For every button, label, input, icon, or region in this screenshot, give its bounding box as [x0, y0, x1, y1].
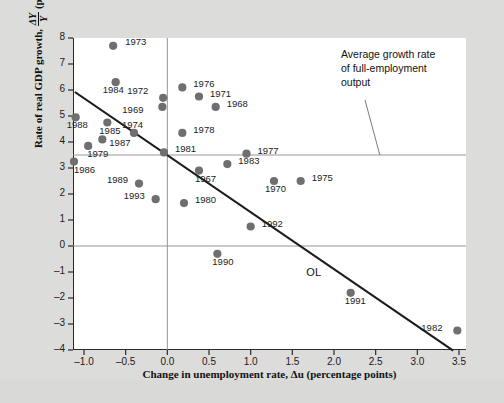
data-point-1993	[152, 195, 160, 203]
data-point-label-1980: 1980	[195, 194, 216, 205]
data-point-label-1991: 1991	[345, 295, 366, 306]
data-point-1992	[247, 222, 255, 230]
data-point-1972	[159, 94, 167, 102]
x-axis-tick-label: –0.5	[106, 356, 146, 367]
delta-y-over-y-fraction: ΔYY	[28, 12, 49, 26]
data-point-label-1993: 1993	[124, 190, 145, 201]
okuns-law-line-label: OL	[306, 266, 321, 278]
data-point-1973	[109, 42, 117, 50]
y-axis-tick-label: 3	[39, 161, 65, 172]
data-point-label-1992: 1992	[262, 218, 283, 229]
data-point-label-1969: 1969	[122, 104, 143, 115]
data-point-label-1989: 1989	[107, 174, 128, 185]
data-point-label-1972: 1972	[127, 85, 148, 96]
x-axis-tick-label: 0.5	[189, 356, 229, 367]
data-point-label-1970: 1970	[265, 183, 286, 194]
x-axis-tick-label: 2.0	[314, 356, 354, 367]
data-point-label-1985: 1985	[99, 125, 120, 136]
data-point-label-1978: 1978	[193, 124, 214, 135]
data-point-label-1981: 1981	[175, 143, 196, 154]
data-point-1969	[158, 103, 166, 111]
annotation-full-employment: Average growth rateof full-employmentout…	[341, 48, 463, 90]
x-axis-label: Change in unemployment rate, Δu (percent…	[73, 368, 466, 380]
x-axis-tick-label: 2.5	[356, 356, 396, 367]
data-point-1974	[130, 129, 138, 137]
data-point-label-1982: 1982	[421, 322, 442, 333]
data-point-label-1979: 1979	[87, 148, 108, 159]
data-point-1976	[178, 83, 186, 91]
y-axis-label: Rate of real GDP growth, ΔYY (percent pe…	[29, 0, 50, 148]
data-point-1982	[453, 326, 461, 334]
data-point-1975	[297, 177, 305, 185]
y-axis-label-text-a: Rate of real GDP growth,	[32, 26, 44, 148]
x-axis-tick-label: 3.0	[397, 356, 437, 367]
data-point-1971	[195, 92, 203, 100]
plot-area: 876543210–1–2–3–4–1.0–0.50.00.51.01.52.0…	[73, 38, 466, 350]
y-axis-tick-label: 2	[39, 187, 65, 198]
data-point-label-1975: 1975	[312, 172, 333, 183]
x-axis-tick-label: 0.0	[147, 356, 187, 367]
data-point-label-1977: 1977	[258, 145, 279, 156]
data-point-label-1987: 1987	[109, 137, 130, 148]
annotation-line-2: of full-employment	[341, 62, 463, 76]
data-point-1989	[135, 180, 143, 188]
y-axis-tick-label: –2	[39, 291, 65, 302]
data-point-label-1990: 1990	[212, 256, 233, 267]
data-point-label-1973: 1973	[125, 36, 146, 47]
annotation-line-3: output	[341, 76, 463, 90]
x-axis-tick-label: –1.0	[64, 356, 104, 367]
data-point-label-1983: 1983	[238, 155, 259, 166]
annotation-leader-line	[365, 100, 380, 155]
data-point-label-1974: 1974	[122, 119, 143, 130]
y-axis-label-text-b: (percent per year)	[32, 0, 44, 12]
data-point-label-1971: 1971	[210, 88, 231, 99]
x-axis-tick-label: 1.0	[231, 356, 271, 367]
y-axis-tick-label: 0	[39, 239, 65, 250]
figure-container: 876543210–1–2–3–4–1.0–0.50.00.51.01.52.0…	[0, 0, 504, 403]
data-point-1968	[212, 103, 220, 111]
annotation-line-1: Average growth rate	[341, 48, 463, 62]
y-axis-tick-label: –4	[39, 343, 65, 354]
data-point-label-1986: 1986	[74, 164, 95, 175]
data-point-1978	[178, 129, 186, 137]
x-axis-tick-label: 3.5	[439, 356, 479, 367]
data-point-label-1984: 1984	[103, 84, 124, 95]
x-axis-tick-label: 1.5	[272, 356, 312, 367]
y-axis-tick-label: 1	[39, 213, 65, 224]
data-point-1981	[160, 148, 168, 156]
data-point-1983	[223, 160, 231, 168]
y-axis-tick-label: –3	[39, 317, 65, 328]
data-point-label-1967: 1967	[195, 173, 216, 184]
data-point-label-1988: 1988	[67, 119, 88, 130]
data-point-1987	[98, 135, 106, 143]
data-point-label-1968: 1968	[227, 98, 248, 109]
data-point-1980	[180, 199, 188, 207]
y-axis-tick-label: –1	[39, 265, 65, 276]
